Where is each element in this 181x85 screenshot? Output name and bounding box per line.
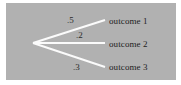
outcome-label-3: outcome 3 xyxy=(109,62,148,72)
outcome-label-1: outcome 1 xyxy=(109,16,148,26)
branch-probability-2: .2 xyxy=(76,30,83,40)
branch-line-3 xyxy=(33,43,105,67)
probability-tree-graphic xyxy=(6,3,176,80)
outcome-label-2: outcome 2 xyxy=(109,39,148,49)
branch-probability-1: .5 xyxy=(67,15,74,25)
branch-probability-3: .3 xyxy=(73,62,80,72)
diagram-panel: .5 .2 .3 outcome 1 outcome 2 outcome 3 xyxy=(6,3,176,80)
